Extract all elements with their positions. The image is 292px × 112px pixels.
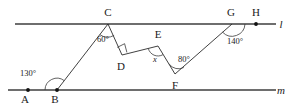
geometry-canvas: A B C D E F G H l m 130° 60° x 80° 140° — [0, 0, 292, 112]
point-label-a: A — [21, 93, 29, 105]
segment-fg — [175, 24, 232, 74]
point-label-e: E — [155, 28, 162, 40]
angle-label-f: 80° — [178, 54, 190, 64]
point-label-d: D — [117, 60, 125, 72]
geometry-diagram: A B C D E F G H l m 130° 60° x 80° 140° — [0, 0, 292, 112]
segment-ef — [158, 46, 175, 74]
point-label-h: H — [252, 6, 260, 18]
point-label-g: G — [227, 6, 235, 18]
point-label-c: C — [104, 6, 111, 18]
angle-label-c: 60° — [97, 34, 109, 44]
angle-label-e: x — [152, 54, 157, 64]
point-a-dot — [26, 88, 30, 92]
angle-label-g: 140° — [227, 36, 243, 46]
point-h-dot — [254, 22, 258, 26]
line-label-l: l — [279, 18, 282, 30]
point-label-b: B — [51, 93, 58, 105]
line-label-m: m — [277, 84, 285, 96]
angle-label-b: 130° — [20, 68, 36, 78]
point-b-dot — [55, 88, 59, 92]
angle-arc-g — [223, 24, 245, 36]
point-label-f: F — [172, 79, 178, 91]
segment-cd — [108, 24, 122, 55]
